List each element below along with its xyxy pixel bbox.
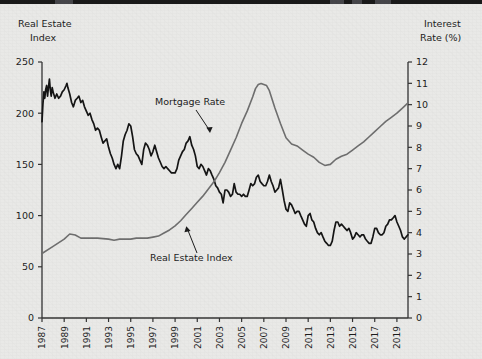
x-tick-label: 1993 — [104, 326, 114, 349]
series-line-real-estate-index — [42, 84, 408, 254]
right-tick-label: 8 — [416, 142, 422, 153]
right-axis-title-line2: Rate (%) — [420, 32, 461, 43]
left-tick-label: 200 — [16, 108, 34, 119]
x-tick-label: 2015 — [348, 326, 358, 349]
right-axis-title-line1: Interest — [424, 18, 461, 29]
x-tick-label: 2005 — [237, 326, 247, 349]
right-tick-label: 6 — [416, 184, 422, 195]
dual-axis-line-chart: 050100150200250 0123456789101112 1987198… — [0, 0, 482, 359]
left-axis-title-line1: Real Estate — [18, 18, 72, 29]
x-tick-label: 1989 — [60, 326, 70, 349]
x-tick-label: 2001 — [193, 326, 203, 349]
left-axis-ticks: 050100150200250 — [16, 56, 42, 323]
left-tick-label: 150 — [16, 159, 34, 170]
annotation-mortgage-rate: Mortgage Rate — [155, 96, 225, 133]
right-tick-label: 1 — [416, 291, 422, 302]
left-tick-label: 250 — [16, 56, 34, 67]
left-tick-label: 100 — [16, 210, 34, 221]
right-tick-label: 2 — [416, 270, 422, 281]
chart-figure: 050100150200250 0123456789101112 1987198… — [0, 0, 482, 359]
x-tick-label: 2007 — [259, 326, 269, 349]
right-tick-label: 5 — [416, 206, 422, 217]
x-tick-label: 2013 — [326, 326, 336, 349]
right-tick-label: 4 — [416, 227, 422, 238]
left-tick-label: 0 — [28, 312, 34, 323]
x-tick-label: 1987 — [37, 326, 47, 349]
x-tick-label: 2017 — [370, 326, 380, 349]
annotation-label-real-estate-index: Real Estate Index — [150, 252, 233, 263]
annotation-real-estate-index: Real Estate Index — [150, 226, 233, 263]
right-tick-label: 0 — [416, 312, 422, 323]
x-tick-label: 2011 — [304, 326, 314, 349]
annotation-label-mortgage-rate: Mortgage Rate — [155, 96, 225, 107]
x-tick-label: 1995 — [126, 326, 136, 349]
left-tick-label: 50 — [22, 261, 34, 272]
left-axis-title-line2: Index — [30, 32, 57, 43]
right-tick-label: 7 — [416, 163, 422, 174]
right-tick-label: 9 — [416, 120, 422, 131]
right-tick-label: 3 — [416, 248, 422, 259]
right-tick-label: 12 — [416, 56, 428, 67]
x-tick-label: 2009 — [281, 326, 291, 349]
right-tick-label: 11 — [416, 78, 428, 89]
x-tick-label: 1991 — [82, 326, 92, 349]
x-tick-label: 1997 — [148, 326, 158, 349]
x-tick-label: 2019 — [392, 326, 402, 349]
bottom-axis-ticks: 1987198919911993199519971999200120032005… — [37, 318, 402, 349]
right-axis-ticks: 0123456789101112 — [408, 56, 428, 323]
x-tick-label: 2003 — [215, 326, 225, 349]
right-tick-label: 10 — [416, 99, 428, 110]
x-tick-label: 1999 — [170, 326, 180, 349]
